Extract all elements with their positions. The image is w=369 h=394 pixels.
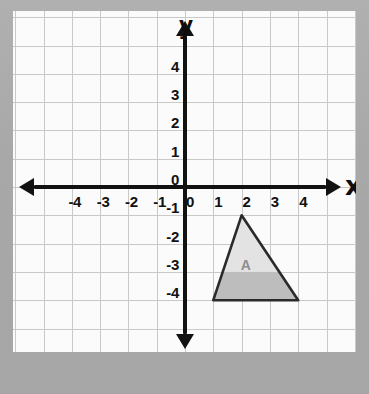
graph-sheet: A y x -4-3-2-10123443210-1-2-3-4 — [13, 11, 356, 352]
shape-a-label: A — [241, 258, 251, 272]
x-axis-tick-label: 1 — [214, 194, 222, 209]
x-axis-tick-label: 4 — [299, 194, 307, 209]
x-axis-tick-label: -4 — [68, 194, 81, 209]
y-axis-tick-label: 1 — [171, 143, 179, 158]
x-axis-tick-label: 3 — [271, 194, 279, 209]
y-axis-tick-label: 2 — [171, 115, 179, 130]
plot-area: A y x -4-3-2-10123443210-1-2-3-4 — [13, 11, 356, 352]
coordinate-plane-screenshot: A y x -4-3-2-10123443210-1-2-3-4 — [0, 0, 369, 394]
x-axis-tick-label: -1 — [153, 194, 166, 209]
x-axis-tick-label: 2 — [243, 194, 251, 209]
y-axis-tick-label: -1 — [166, 200, 179, 215]
x-axis-tick-label: -3 — [97, 194, 110, 209]
y-axis-tick-label: -3 — [166, 256, 179, 271]
x-axis-tick-label: -2 — [125, 194, 138, 209]
y-axis-tick-label: -2 — [166, 228, 179, 243]
y-axis-tick-label: 0 — [171, 172, 179, 187]
shape-a-triangle — [13, 11, 356, 352]
x-axis-tick-label: 0 — [186, 194, 194, 209]
y-axis-tick-label: 4 — [171, 58, 179, 73]
x-axis-title: x — [345, 173, 356, 199]
y-axis-tick-label: 3 — [171, 87, 179, 102]
y-axis-title: y — [179, 13, 193, 38]
y-axis-tick-label: -4 — [166, 285, 179, 300]
